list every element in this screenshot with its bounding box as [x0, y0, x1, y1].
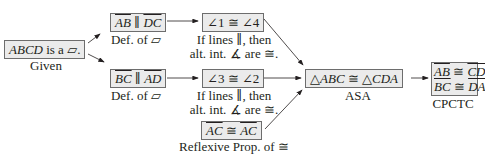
segment-dc: DC — [143, 15, 161, 30]
congruent-symbol: ≅ — [345, 71, 363, 86]
cpctc-line-2: BC ≅ DA — [434, 79, 475, 94]
triangle-icon: △ — [362, 71, 372, 86]
segment-bc: BC — [115, 71, 132, 86]
arrow-given-to-bcad — [88, 54, 104, 62]
angle-3-2-box: ∠3 ≅ ∠2 — [202, 69, 264, 88]
triangle-abc: ABC — [320, 71, 345, 86]
cpctc-line-1: AB ≅ CD — [434, 64, 475, 79]
triangle-reason: ASA — [305, 88, 411, 103]
angle-1-4-box: ∠1 ≅ ∠4 — [202, 13, 264, 32]
segment-da: DA — [468, 79, 485, 94]
segment-ac: AC — [206, 123, 223, 138]
angle-3-2-reason-1: If lines ∥, then — [186, 88, 282, 103]
given-period: . — [77, 42, 80, 57]
bc-ad-reason: Def. of ▱ — [104, 88, 168, 103]
congruent-symbol: ≅ — [451, 79, 469, 94]
parallel-symbol: ∥ — [132, 71, 145, 86]
angle-3-2-reason-2: alt. int. ∡ are ≅. — [186, 102, 282, 117]
parallelogram-icon: ▱ — [67, 42, 77, 57]
cpctc-box: AB ≅ CD BC ≅ DA — [431, 62, 478, 96]
ab-dc-reason: Def. of ▱ — [104, 32, 168, 47]
bc-ad-box: BC ∥ AD — [110, 69, 166, 88]
segment-ad: AD — [144, 71, 161, 86]
given-reason: Given — [4, 58, 88, 73]
segment-ab: AB — [115, 15, 131, 30]
ac-ac-reason: Reflexive Prop. of ≅ — [176, 139, 292, 154]
ab-dc-box: AB ∥ DC — [110, 13, 166, 32]
given-box: ABCD is a ▱. — [4, 40, 85, 59]
arrow-given-to-abdc — [88, 34, 100, 43]
angle-1-4-reason-2: alt. int. ∡ are ≅. — [186, 46, 282, 61]
segment-ab: AB — [434, 64, 450, 79]
congruent-symbol: ≅ — [450, 64, 468, 79]
ac-ac-box: AC ≅ AC — [201, 121, 262, 140]
segment-ac: AC — [240, 123, 257, 138]
parallel-symbol: ∥ — [131, 15, 144, 30]
triangle-cda: CDA — [372, 71, 398, 86]
given-text: is a — [43, 42, 67, 57]
segment-cd: CD — [467, 64, 485, 79]
triangle-icon: △ — [310, 71, 320, 86]
given-quad-name: ABCD — [9, 42, 43, 57]
congruent-symbol: ≅ — [223, 123, 241, 138]
segment-bc: BC — [434, 79, 451, 94]
cpctc-reason: CPCTC — [428, 96, 478, 111]
triangle-congruence-box: △ABC ≅ △CDA — [305, 69, 403, 88]
angle-1-4-reason-1: If lines ∥, then — [186, 32, 282, 47]
